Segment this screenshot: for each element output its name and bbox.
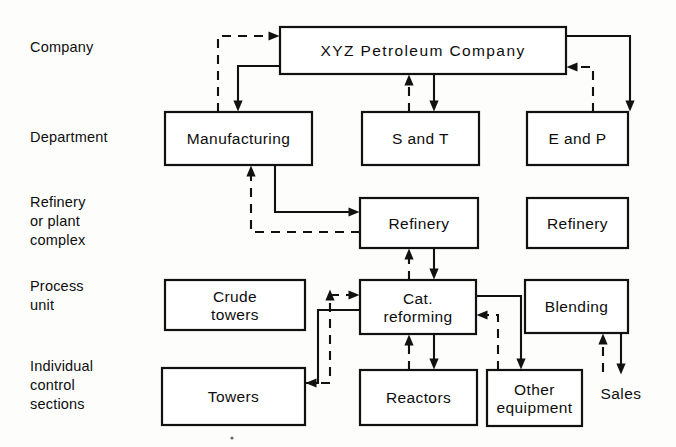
connector-line — [251, 171, 360, 232]
connector-reactors-up-to-cat-reforming — [404, 335, 413, 371]
row-label-line: Refinery — [30, 194, 86, 210]
connector-crude-towers-to-cat-reforming — [330, 290, 360, 299]
row-label-line: control — [30, 377, 75, 393]
row-label-line: sections — [30, 396, 85, 412]
connector-manufacturing-up-to-company — [218, 31, 280, 112]
connector-e-and-p-up-to-company — [567, 62, 594, 112]
connector-company-down-to-s-and-t — [429, 74, 438, 112]
connector-company-down-to-e-and-p — [566, 36, 635, 112]
row-label-department: Department — [30, 129, 108, 145]
arrowhead-icon — [269, 31, 280, 40]
connector-line — [566, 36, 630, 106]
connector-company-down-to-manufacturing — [233, 66, 280, 112]
org-flowchart: XYZ Petroleum CompanyManufacturingS and … — [0, 0, 676, 447]
arrowhead-icon — [567, 62, 578, 71]
node-refinery-left[interactable]: Refinery — [360, 198, 478, 248]
connector-cat-reforming-to-other-equipment — [476, 296, 526, 370]
arrowhead-icon — [429, 101, 438, 112]
node-label: Refinery — [547, 215, 608, 232]
connector-line — [275, 165, 354, 212]
node-label: reforming — [383, 308, 452, 325]
flowchart-canvas: XYZ Petroleum CompanyManufacturingS and … — [0, 0, 676, 447]
label-sales: Sales — [601, 385, 642, 402]
row-label-process-unit: Processunit — [30, 278, 84, 313]
arrowhead-icon — [404, 75, 413, 86]
arrowhead-icon — [516, 359, 525, 370]
connector-line — [238, 66, 280, 106]
node-label: Cat. — [403, 290, 433, 307]
node-crude-towers[interactable]: Crudetowers — [165, 280, 305, 330]
connector-cat-reforming-down-to-reactors — [429, 334, 438, 370]
connector-line — [218, 36, 274, 112]
connector-refinery-up-dashed-from-cat — [404, 249, 413, 281]
node-label: Blending — [545, 298, 609, 315]
node-manufacturing[interactable]: Manufacturing — [165, 112, 312, 165]
node-refinery-right[interactable]: Refinery — [527, 198, 628, 248]
node-other-equipment[interactable]: Otherequipment — [487, 370, 582, 426]
connector-refinery-up-to-manufacturing — [246, 166, 360, 233]
row-label-company: Company — [30, 39, 94, 55]
row-label-line: Process — [30, 278, 84, 294]
row-label-refinery-or-plant-complex: Refineryor plantcomplex — [30, 194, 86, 248]
node-reactors[interactable]: Reactors — [360, 370, 477, 425]
node-label: E and P — [549, 130, 607, 147]
free-labels-layer: Sales — [601, 385, 642, 402]
node-blending[interactable]: Blending — [525, 280, 628, 333]
node-label: S and T — [392, 130, 449, 147]
connector-sales-up-to-blending — [598, 334, 607, 373]
node-label: Refinery — [389, 215, 450, 232]
row-label-line: unit — [30, 297, 54, 313]
arrowhead-icon — [625, 101, 634, 112]
connector-line — [572, 67, 593, 112]
node-e-and-p[interactable]: E and P — [527, 112, 628, 165]
arrowhead-icon — [404, 249, 413, 260]
connector-cat-reforming-to-towers — [306, 310, 361, 388]
connector-line — [482, 315, 498, 370]
connector-manufacturing-down-to-refinery — [275, 165, 360, 217]
boxes-layer: XYZ Petroleum CompanyManufacturingS and … — [162, 27, 628, 426]
arrowhead-icon — [404, 335, 413, 346]
row-label-line: complex — [30, 232, 86, 248]
node-label: Reactors — [386, 389, 451, 406]
node-label: Manufacturing — [187, 130, 290, 147]
node-label: equipment — [497, 399, 573, 416]
row-label-line: Company — [30, 39, 94, 55]
node-towers[interactable]: Towers — [162, 368, 305, 425]
connector-blending-down-to-sales — [616, 333, 625, 375]
arrowhead-icon — [349, 207, 360, 216]
row-labels-layer: CompanyDepartmentRefineryor plantcomplex… — [30, 39, 108, 412]
row-label-individual-control-sections: Individualcontrolsections — [30, 358, 93, 412]
connector-other-equipment-to-cat-reforming — [477, 310, 499, 370]
row-label-line: Department — [30, 129, 108, 145]
arrowhead-icon — [429, 359, 438, 370]
node-label: towers — [211, 306, 259, 323]
node-label: Crude — [213, 288, 257, 305]
node-label: XYZ Petroleum Company — [320, 42, 525, 59]
arrowhead-icon — [477, 310, 488, 319]
connector-line — [311, 310, 360, 383]
node-s-and-t[interactable]: S and T — [362, 112, 479, 165]
node-cat-reforming[interactable]: Cat.reforming — [360, 280, 476, 334]
node-label: Towers — [208, 388, 260, 405]
connector-towers-up-to-cat-reforming — [305, 290, 335, 384]
arrowhead-icon — [233, 101, 242, 112]
arrowhead-icon — [429, 269, 438, 280]
row-label-line: Individual — [30, 358, 93, 374]
row-label-line: or plant — [30, 213, 80, 229]
page-speck — [230, 436, 233, 439]
arrowhead-icon — [349, 290, 360, 299]
connector-refinery-down-to-cat-reforming — [429, 248, 438, 280]
arrowhead-icon — [246, 166, 255, 177]
node-xyz-petroleum-company[interactable]: XYZ Petroleum Company — [280, 27, 566, 74]
arrowhead-icon — [598, 334, 607, 345]
connector-s-and-t-up-to-company — [404, 75, 413, 113]
arrowhead-icon — [616, 364, 625, 375]
node-label: Other — [514, 381, 555, 398]
